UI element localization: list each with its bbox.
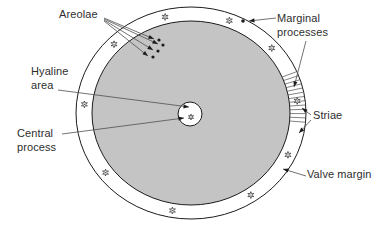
areola-dot xyxy=(156,49,159,52)
marginal-process-star-pore xyxy=(271,47,272,48)
marginal-process-star-pore xyxy=(84,104,85,105)
hyaline-area-circle xyxy=(178,102,202,126)
marginal-process-star-pore xyxy=(287,154,288,155)
central-process-star-pore xyxy=(190,116,191,117)
areola-dot xyxy=(161,43,164,46)
areola-dot xyxy=(151,55,154,58)
marginal-process-star-pore xyxy=(229,20,230,21)
marginal-process-star-pore xyxy=(297,100,298,101)
central-process-label: Central process xyxy=(17,127,71,154)
marginal-process-dot xyxy=(241,19,245,23)
marginal-processes-label: Marginal processes xyxy=(277,12,339,39)
marginal-process-star-pore xyxy=(165,16,166,17)
marginal-process-star-pore xyxy=(105,172,106,173)
marginal-process-star-pore xyxy=(113,44,114,45)
marginal-process-star-pore xyxy=(172,210,173,211)
marginal-process-star-pore xyxy=(250,194,251,195)
striae-label: Striae xyxy=(313,109,342,123)
areola-dot xyxy=(157,38,160,41)
valve-margin-label: Valve margin xyxy=(307,168,372,182)
hyaline-area-label: Hyaline area xyxy=(31,65,81,92)
diatom-valve-diagram: Areolae Marginal processes Hyaline area … xyxy=(0,0,382,228)
areolae-label: Areolae xyxy=(59,8,98,22)
